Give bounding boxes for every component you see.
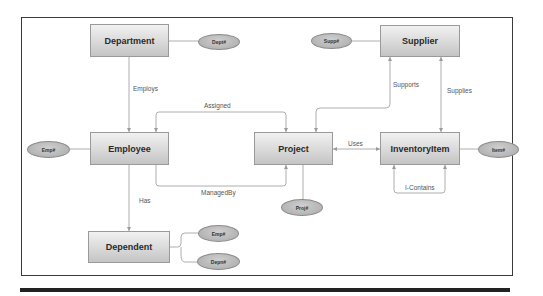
relationship-supports-label[interactable]: Supports [393, 81, 419, 88]
attribute-item-no[interactable]: Item# [478, 141, 519, 158]
relationship-i-contains-label[interactable]: I-Contains [405, 184, 435, 191]
attribute-label: Dept# [212, 39, 226, 45]
entity-department[interactable]: Department [90, 24, 169, 57]
entity-dependent[interactable]: Dependent [88, 231, 170, 263]
attribute-label: Depn# [211, 259, 226, 265]
relationship-managed-by-label[interactable]: ManagedBy [201, 189, 236, 196]
attribute-label: Item# [492, 147, 505, 153]
entity-label: Employee [108, 144, 151, 154]
relationship-assigned-label[interactable]: Assigned [204, 102, 231, 109]
attribute-dependent-emp-no[interactable]: Emp# [198, 225, 239, 242]
relationship-uses-label[interactable]: Uses [348, 140, 363, 147]
entity-label: Project [278, 144, 309, 154]
attribute-depn-no[interactable]: Depn# [197, 253, 240, 270]
entity-inventory-item[interactable]: InventoryItem [380, 132, 460, 165]
attribute-proj-no[interactable]: Proj# [281, 199, 323, 216]
relationship-has-label[interactable]: Has [139, 197, 151, 204]
entity-label: Dependent [106, 242, 153, 252]
entity-label: Supplier [402, 36, 438, 46]
relationship-supplies-label[interactable]: Supplies [447, 87, 472, 94]
relationship-employs-label[interactable]: Employs [133, 85, 158, 92]
entity-label: Department [104, 36, 154, 46]
attribute-label: Proj# [296, 205, 309, 211]
attribute-label: Supp# [324, 38, 339, 44]
entity-employee[interactable]: Employee [90, 132, 169, 165]
attribute-label: Emp# [212, 231, 226, 237]
attribute-dept-no[interactable]: Dept# [198, 34, 240, 50]
entity-project[interactable]: Project [254, 132, 333, 165]
attribute-emp-no[interactable]: Emp# [27, 141, 70, 158]
attribute-label: Emp# [42, 147, 56, 153]
entity-label: InventoryItem [390, 144, 449, 154]
attribute-supp-no[interactable]: Supp# [311, 33, 352, 49]
entity-supplier[interactable]: Supplier [380, 25, 460, 57]
